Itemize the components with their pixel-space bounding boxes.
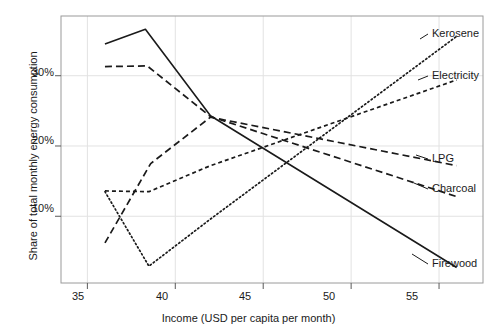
axis-ticks [55,76,439,289]
xtick-label-50: 50 [309,290,349,302]
series-label-electricity: Electricity [432,69,479,81]
x-axis-title: Income (USD per capita per month) [0,312,497,324]
series-line-electricity [105,80,457,192]
xtick-label-40: 40 [142,290,182,302]
series-line-charcoal [105,66,457,197]
series-label-lpg: LPG [432,152,454,164]
grid-lines [61,16,483,283]
leader-line-charcoal [414,183,428,189]
plot-frame [61,16,483,283]
leader-line-firewood [412,254,428,264]
series-line-firewood [105,29,457,267]
series-label-kerosene: Kerosene [432,27,479,39]
data-series [105,29,457,267]
leader-line-kerosene [420,34,428,39]
series-label-firewood: Firewood [432,257,477,269]
series-line-kerosene [105,36,457,266]
chart-figure: 10% 20% 30% 35 40 45 50 55 Income (USD p… [0,0,497,332]
series-label-charcoal: Charcoal [432,182,476,194]
leader-line-electricity [418,76,428,80]
series-line-lpg [105,117,457,243]
xtick-label-55: 55 [392,290,432,302]
xtick-label-45: 45 [225,290,265,302]
xtick-label-35: 35 [58,290,98,302]
y-axis-title: Share of total monthly energy consumptio… [27,26,39,286]
chart-plot-area [0,0,497,332]
